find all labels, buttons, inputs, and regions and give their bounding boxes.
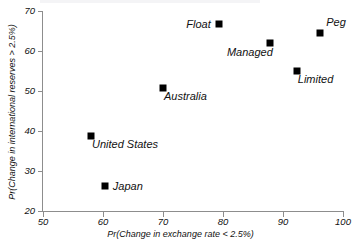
image-top-artifact	[40, 0, 260, 3]
data-point-label: Managed	[227, 46, 273, 58]
data-point-label: Australia	[164, 90, 207, 102]
x-tick-label: 60	[88, 216, 118, 227]
x-tick-label: 90	[268, 216, 298, 227]
x-tick-label: 50	[28, 216, 58, 227]
data-point-label: Limited	[298, 73, 333, 85]
data-point-marker	[215, 20, 222, 27]
x-axis-title: Pr(Change in exchange rate < 2.5%)	[0, 229, 361, 239]
x-tick-label: 100	[328, 216, 358, 227]
data-point-marker	[101, 182, 108, 189]
x-tick-label: 80	[208, 216, 238, 227]
plot-area	[43, 11, 343, 211]
x-tick-label: 70	[148, 216, 178, 227]
scatter-chart: 203040506070 5060708090100 Pr(Change in …	[0, 0, 361, 242]
y-axis-title: Pr(Change in international reserves > 2.…	[7, 6, 17, 218]
data-point-label: Float	[186, 18, 210, 30]
data-point-label: United States	[92, 138, 158, 150]
data-point-label: Japan	[113, 180, 143, 192]
data-point-marker	[317, 30, 324, 37]
data-point-label: Peg	[326, 16, 346, 28]
x-axis-line	[43, 211, 344, 212]
